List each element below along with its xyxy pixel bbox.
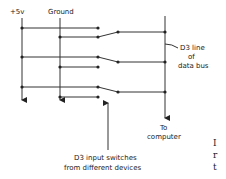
bus-leader-line [165,44,178,48]
input-label-line2: from different devices [64,164,141,172]
switch-1 [20,26,166,38]
switch-arm-3 [98,87,118,92]
bus-label-line2: of [188,53,195,61]
switch-2 [20,55,166,68]
switch-3 [20,85,166,98]
to-label: To [159,124,167,132]
bus-label-line1: D3 line [180,44,205,52]
edge-text-1: I [213,138,217,148]
switch-arm-1 [98,32,118,37]
edge-text-2: r [213,150,218,160]
ground-label: Ground [48,8,74,16]
computer-label: computer [147,133,181,141]
diagram: +5v Ground [0,0,226,179]
edge-text-3: t [213,162,217,172]
input-label-line1: D3 input switches [74,154,137,162]
switch-arm-2 [98,57,118,62]
supply-label: +5v [10,8,24,16]
bus-label-line3: data bus [178,62,209,70]
